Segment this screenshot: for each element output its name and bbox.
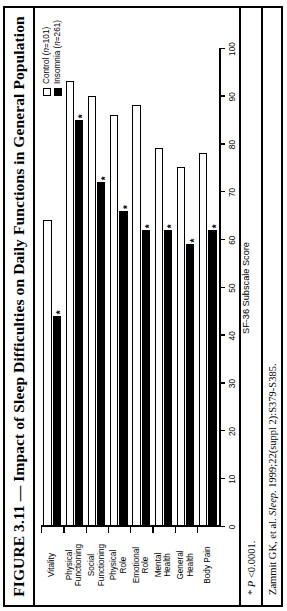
legend-label-insomnia: Insomnia (n=261) bbox=[52, 20, 63, 84]
category-label-line: Emotional bbox=[132, 531, 141, 599]
significance-star: * bbox=[125, 205, 131, 209]
category-label-line: Health bbox=[163, 531, 172, 599]
category-label-line: Vitality bbox=[47, 531, 56, 599]
category-label: MentalHealth bbox=[154, 531, 173, 599]
axis-tick bbox=[219, 48, 225, 49]
category-label: EmotionalRole bbox=[132, 531, 151, 599]
category-label-line: Functioning bbox=[97, 531, 106, 599]
bar-control bbox=[88, 96, 96, 526]
chart-plot-area: Control (n=101) Insomnia (n=261) 0102030… bbox=[35, 8, 247, 605]
bar-control bbox=[132, 105, 140, 526]
axis-tick-label: 40 bbox=[227, 331, 237, 340]
axis-tick bbox=[219, 478, 225, 479]
bar-control bbox=[43, 220, 51, 526]
bar-control bbox=[199, 153, 207, 526]
bar-insomnia bbox=[164, 230, 172, 526]
axis-tick-label: 60 bbox=[227, 236, 237, 245]
category-label-line: Mental bbox=[154, 531, 163, 599]
category-label-line: Functioning bbox=[74, 531, 83, 599]
significance-star: * bbox=[147, 224, 153, 228]
significance-footnote: * P <0.0001. bbox=[239, 8, 261, 605]
axis-tick bbox=[219, 287, 225, 288]
axis-tick-label: 30 bbox=[227, 379, 237, 388]
figure-page: FIGURE 3.11 — Impact of Sleep Difficulti… bbox=[0, 0, 287, 611]
significance-star: * bbox=[169, 224, 175, 228]
significance-star: * bbox=[192, 239, 198, 243]
axis-tick bbox=[219, 334, 225, 335]
bar-insomnia bbox=[186, 244, 194, 526]
axis-tick-label: 50 bbox=[227, 283, 237, 292]
bar-control bbox=[66, 81, 74, 526]
figure-title: FIGURE 3.11 — Impact of Sleep Difficulti… bbox=[5, 8, 35, 605]
significance-star: * bbox=[58, 310, 64, 314]
legend-item-insomnia: Insomnia (n=261) bbox=[52, 20, 63, 96]
axis-tick-label: 0 bbox=[227, 525, 237, 530]
axis-tick-label: 90 bbox=[227, 92, 237, 101]
category-label-line: Role bbox=[119, 531, 128, 599]
category-label-line: Physical bbox=[109, 531, 118, 599]
category-label-line: Health bbox=[186, 531, 195, 599]
significance-star: * bbox=[103, 176, 109, 180]
category-tick bbox=[197, 527, 198, 533]
axis-tick bbox=[219, 239, 225, 240]
category-axis-line bbox=[219, 49, 221, 527]
axis-tick bbox=[219, 191, 225, 192]
bar-control bbox=[110, 115, 118, 526]
bar-control bbox=[155, 148, 163, 526]
category-label: PhysicalFunctioning bbox=[65, 531, 84, 599]
chart-legend: Control (n=101) Insomnia (n=261) bbox=[41, 20, 63, 96]
significance-star: * bbox=[80, 114, 86, 118]
category-label: PhysicalRole bbox=[109, 531, 128, 599]
axis-tick bbox=[219, 143, 225, 144]
category-tick bbox=[41, 527, 42, 533]
bar-insomnia bbox=[97, 182, 105, 526]
category-label-line: General bbox=[176, 531, 185, 599]
open-square-swatch-icon bbox=[43, 88, 51, 96]
bar-control bbox=[177, 168, 185, 527]
significance-footnote-text: * P <0.0001. bbox=[246, 541, 257, 595]
axis-tick bbox=[219, 382, 225, 383]
axis-tick-label: 70 bbox=[227, 188, 237, 197]
axis-tick bbox=[219, 95, 225, 96]
bar-insomnia bbox=[119, 211, 127, 526]
figure-footnotes: * P <0.0001. Zammit GK, et al. Sleep. 19… bbox=[239, 8, 281, 605]
bar-insomnia bbox=[208, 230, 216, 526]
axis-tick-label: 80 bbox=[227, 140, 237, 149]
bar-insomnia bbox=[142, 230, 150, 526]
axis-tick-label: 100 bbox=[227, 42, 237, 56]
category-label-line: Physical bbox=[65, 531, 74, 599]
category-label-line: Social bbox=[87, 531, 96, 599]
category-label: SocialFunctioning bbox=[87, 531, 106, 599]
significance-star: * bbox=[214, 224, 220, 228]
axis-tick-label: 20 bbox=[227, 427, 237, 436]
axis-tick-label: 10 bbox=[227, 475, 237, 484]
category-label-line: Body Pain bbox=[203, 531, 212, 599]
category-label: Vitality bbox=[47, 531, 56, 599]
category-label: Body Pain bbox=[203, 531, 212, 599]
axis-tick bbox=[219, 526, 225, 527]
bar-insomnia bbox=[53, 316, 61, 526]
axis-tick bbox=[219, 430, 225, 431]
legend-item-control: Control (n=101) bbox=[41, 20, 52, 96]
rotated-figure-wrapper: FIGURE 3.11 — Impact of Sleep Difficulti… bbox=[0, 0, 287, 611]
figure-box: FIGURE 3.11 — Impact of Sleep Difficulti… bbox=[3, 6, 283, 607]
citation-text: Zammit GK, et al. Sleep. 1999;22(suppl 2… bbox=[267, 363, 278, 595]
legend-label-control: Control (n=101) bbox=[41, 27, 52, 84]
bar-insomnia bbox=[75, 120, 83, 526]
category-label-line: Role bbox=[141, 531, 150, 599]
category-label: GeneralHealth bbox=[176, 531, 195, 599]
citation-footnote: Zammit GK, et al. Sleep. 1999;22(suppl 2… bbox=[261, 8, 281, 605]
filled-square-swatch-icon bbox=[54, 88, 62, 96]
